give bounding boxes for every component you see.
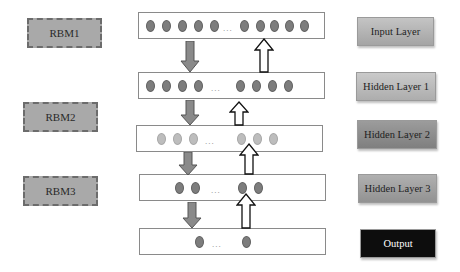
node: [173, 133, 182, 145]
ellipsis: ...: [212, 239, 222, 249]
node: [269, 133, 278, 145]
hidden-layer-2-label-box: Hidden Layer 2: [357, 120, 437, 149]
down-arrow-icon: [182, 202, 202, 229]
node: [242, 236, 251, 248]
node: [256, 20, 265, 32]
node: [146, 80, 155, 92]
hidden-layer-2-label: Hidden Layer 2: [364, 129, 430, 140]
ellipsis: ...: [211, 185, 221, 195]
down-arrow-icon: [180, 100, 200, 126]
hidden-layer-2-box: ...: [136, 125, 323, 152]
up-arrow-icon: [229, 101, 249, 126]
up-arrow-icon: [236, 193, 256, 229]
rbm3-box: RBM3: [23, 176, 98, 206]
output-label-box: Output: [360, 229, 436, 258]
node: [175, 182, 184, 194]
input-layer-label-box: Input Layer: [357, 17, 434, 46]
down-arrow-icon: [178, 152, 198, 176]
ellipsis: ...: [205, 136, 215, 146]
ellipsis: ...: [211, 83, 221, 93]
node: [178, 20, 187, 32]
node: [191, 182, 200, 194]
rbm1-box: RBM1: [27, 18, 102, 48]
node: [210, 20, 219, 32]
hidden-layer-3-label-box: Hidden Layer 3: [358, 174, 437, 203]
ellipsis: ...: [223, 23, 233, 33]
hidden-layer-3-label: Hidden Layer 3: [365, 183, 431, 194]
node: [195, 236, 204, 248]
hidden-layer-1-label: Hidden Layer 1: [363, 81, 429, 92]
down-arrow-icon: [180, 41, 200, 73]
node: [240, 20, 249, 32]
node: [194, 20, 203, 32]
output-label: Output: [383, 238, 412, 249]
node: [178, 80, 187, 92]
up-arrow-icon: [254, 38, 274, 73]
node: [270, 20, 279, 32]
node: [162, 20, 171, 32]
rbm2-box: RBM2: [23, 102, 98, 132]
node: [162, 80, 171, 92]
hidden-layer-1-box: ...: [138, 72, 325, 99]
rbm1-label: RBM1: [50, 27, 80, 39]
rbm3-label: RBM3: [46, 185, 76, 197]
node: [189, 133, 198, 145]
node: [252, 80, 261, 92]
node: [300, 20, 309, 32]
output-layer-box: ...: [139, 228, 326, 255]
node: [146, 20, 155, 32]
node: [285, 20, 294, 32]
hidden-layer-1-label-box: Hidden Layer 1: [356, 72, 436, 101]
node: [194, 80, 203, 92]
hidden-layer-3-box: ...: [139, 174, 326, 201]
up-arrow-icon: [239, 143, 259, 175]
node: [268, 80, 277, 92]
rbm2-label: RBM2: [46, 111, 76, 123]
node: [236, 80, 245, 92]
node: [284, 80, 293, 92]
node: [157, 133, 166, 145]
input-layer-box: ...: [138, 12, 325, 39]
input-layer-label: Input Layer: [371, 26, 420, 37]
